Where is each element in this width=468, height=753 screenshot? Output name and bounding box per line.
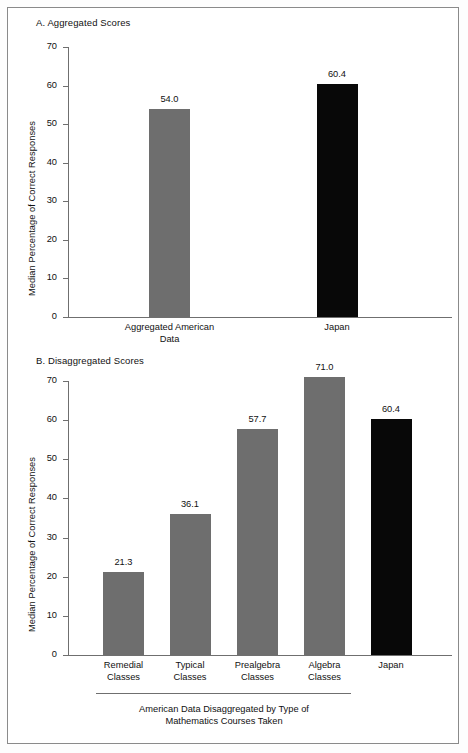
- panel-b-y-tick-label-20: 20: [24, 571, 57, 581]
- category-label-line: Classes: [270, 672, 380, 684]
- panel-b-x-axis-caption-line1: American Data Disaggregated by Type of: [68, 703, 380, 715]
- panel-a-x-axis: [68, 317, 452, 318]
- category-label: Aggregated AmericanData: [115, 322, 225, 345]
- panel-b-y-tick-60: [63, 420, 68, 421]
- bar-value-label: 54.0: [145, 94, 195, 104]
- panel-a-y-tick-50: [63, 124, 68, 125]
- category-label-line: Japan: [336, 660, 446, 672]
- panel-b-y-tick-40: [63, 498, 68, 499]
- panel-b-y-tick-label-50: 50: [24, 453, 57, 463]
- figure-root: A. Aggregated Scores Median Percentage o…: [0, 0, 468, 753]
- panel-a-y-tick-0: [63, 317, 68, 318]
- panel-b-y-tick-50: [63, 459, 68, 460]
- panel-a-title: A. Aggregated Scores: [36, 17, 130, 28]
- panel-a-y-tick-label-0: 0: [24, 311, 57, 321]
- panel-b-x-axis: [68, 655, 452, 656]
- bar: [237, 429, 278, 655]
- panel-a-y-tick-label-30: 30: [24, 195, 57, 205]
- panel-b-x-axis-caption-line2: Mathematics Courses Taken: [68, 715, 380, 727]
- bar-value-label: 57.7: [233, 414, 283, 424]
- panel-b-title: B. Disaggregated Scores: [36, 355, 144, 366]
- category-label-line: Aggregated American: [115, 322, 225, 334]
- bar-value-label: 21.3: [99, 557, 149, 567]
- panel-a-y-axis-label: Median Percentage of Correct Responses: [27, 121, 37, 296]
- bar-value-label: 36.1: [165, 499, 215, 509]
- panel-b-y-tick-20: [63, 577, 68, 578]
- panel-b-y-tick-label-30: 30: [24, 532, 57, 542]
- bar: [371, 419, 412, 655]
- category-label: Japan: [282, 322, 392, 334]
- panel-b-y-tick-label-10: 10: [24, 610, 57, 620]
- panel-a-y-tick-label-50: 50: [24, 118, 57, 128]
- panel-b-group-bracket: [96, 693, 351, 694]
- panel-a-y-tick-60: [63, 86, 68, 87]
- bar-value-label: 60.4: [366, 404, 416, 414]
- bar-value-label: 71.0: [300, 362, 350, 372]
- bar: [170, 514, 211, 655]
- panel-b-y-tick-0: [63, 655, 68, 656]
- panel-b-y-tick-label-70: 70: [24, 375, 57, 385]
- panel-a-y-tick-label-40: 40: [24, 157, 57, 167]
- panel-a-y-tick-label-60: 60: [24, 80, 57, 90]
- panel-a-y-tick-40: [63, 163, 68, 164]
- panel-a-y-tick-label-70: 70: [24, 41, 57, 51]
- panel-a-y-tick-20: [63, 240, 68, 241]
- panel-b-y-tick-10: [63, 616, 68, 617]
- panel-b-y-axis-label: Median Percentage of Correct Responses: [27, 457, 37, 632]
- panel-b-y-tick-70: [63, 381, 68, 382]
- panel-b-y-tick-30: [63, 538, 68, 539]
- panel-a-y-tick-30: [63, 201, 68, 202]
- panel-b-y-axis: [68, 381, 69, 656]
- bar: [317, 84, 358, 317]
- panel-a-y-axis: [68, 47, 69, 318]
- bar: [304, 377, 345, 655]
- bar: [149, 109, 190, 317]
- panel-b-x-axis-caption: American Data Disaggregated by Type of M…: [68, 703, 380, 727]
- bar: [103, 572, 144, 655]
- category-label-line: Japan: [282, 322, 392, 334]
- panel-a-y-tick-70: [63, 47, 68, 48]
- panel-b-y-tick-label-40: 40: [24, 492, 57, 502]
- category-label: Japan: [336, 660, 446, 672]
- panel-a-y-tick-10: [63, 278, 68, 279]
- panel-a-y-tick-label-10: 10: [24, 272, 57, 282]
- bar-value-label: 60.4: [312, 69, 362, 79]
- panel-b-y-tick-label-0: 0: [24, 649, 57, 659]
- category-label-line: Data: [115, 334, 225, 346]
- panel-a-y-tick-label-20: 20: [24, 234, 57, 244]
- panel-b-y-tick-label-60: 60: [24, 414, 57, 424]
